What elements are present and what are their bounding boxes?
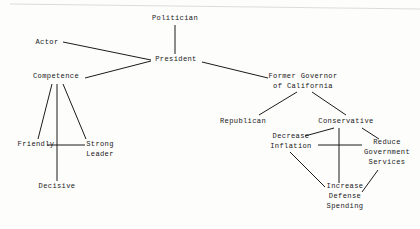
node-label-line: Increase: [327, 182, 364, 192]
node-label-line: Spending: [327, 202, 364, 212]
node-president: President: [155, 55, 196, 65]
node-label-line: Friendly: [18, 140, 55, 150]
node-competence: Competence: [33, 72, 79, 82]
node-label-line: Decisive: [39, 182, 76, 192]
node-label-line: Politician: [152, 14, 198, 24]
node-label-line: Inflation: [270, 142, 311, 152]
concept-network-diagram: PoliticianPresidentActorCompetenceFriend…: [0, 0, 420, 229]
node-politician: Politician: [152, 14, 198, 24]
node-increase-defense-spending: IncreaseDefenseSpending: [327, 182, 364, 211]
node-actor: Actor: [35, 38, 58, 48]
node-label-line: Actor: [35, 38, 58, 48]
node-label-line: Republican: [220, 117, 266, 127]
node-label-line: Defense: [327, 192, 364, 202]
node-former-governor: Former Governorof California: [268, 72, 337, 92]
node-republican: Republican: [220, 117, 266, 127]
node-decrease-inflation: DecreaseInflation: [270, 132, 311, 152]
node-label-line: President: [155, 55, 196, 65]
node-label-line: Competence: [33, 72, 79, 82]
node-label-line: Decrease: [270, 132, 311, 142]
node-decisive: Decisive: [39, 182, 76, 192]
node-conservative: Conservative: [318, 117, 373, 127]
node-reduce-government-services: ReduceGovernmentServices: [364, 138, 410, 167]
node-label-line: Former Governor: [268, 72, 337, 82]
node-label-line: Reduce: [364, 138, 410, 148]
node-label-line: Services: [364, 158, 410, 168]
node-friendly: Friendly: [18, 140, 55, 150]
node-label-line: Government: [364, 148, 410, 158]
node-label-line: Conservative: [318, 117, 373, 127]
node-layer: PoliticianPresidentActorCompetenceFriend…: [0, 0, 420, 229]
node-label-line: of California: [268, 82, 337, 92]
node-strong-leader: StrongLeader: [86, 140, 114, 160]
node-label-line: Strong: [86, 140, 114, 150]
node-label-line: Leader: [86, 150, 114, 160]
